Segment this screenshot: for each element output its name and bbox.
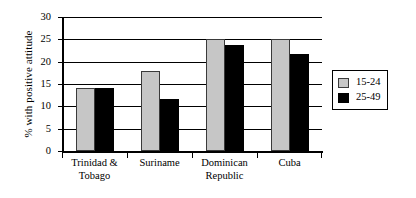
x-axis-label-line: Dominican (192, 157, 257, 170)
bar-1-3 (290, 54, 309, 151)
x-axis-label-1: Suriname (127, 157, 192, 170)
y-axis-tick-label: 0 (0, 146, 51, 157)
bar-1-0 (95, 88, 114, 151)
legend-item-0: 15-24 (338, 75, 381, 90)
bar-0-3 (271, 39, 290, 151)
y-axis-tick-label: 20 (0, 56, 51, 67)
legend-label: 25-49 (356, 92, 381, 103)
bar-0-0 (76, 88, 95, 151)
bar-1-1 (160, 99, 179, 151)
legend-swatch-icon (338, 93, 349, 103)
gridline (62, 17, 322, 18)
x-axis-label-3: Cuba (257, 157, 322, 170)
bar-0-1 (141, 71, 160, 151)
bar-0-2 (206, 39, 225, 151)
x-axis-label-line: Republic (192, 170, 257, 183)
y-axis-tick-label: 25 (0, 34, 51, 45)
chart-legend: 15-2425-49 (332, 70, 388, 110)
legend-label: 15-24 (356, 77, 381, 88)
plot-area (62, 17, 322, 152)
legend-swatch-icon (338, 78, 349, 88)
y-axis-line (62, 17, 64, 153)
y-axis-tick-label: 15 (0, 79, 51, 90)
y-axis-tick-label: 10 (0, 101, 51, 112)
y-axis-tick-label: 5 (0, 123, 51, 134)
x-axis-label-line: Trinidad & (62, 157, 127, 170)
bar-chart-figure: % with positive attitude 051015202530 Tr… (0, 0, 416, 198)
x-axis-label-2: DominicanRepublic (192, 157, 257, 182)
legend-item-1: 25-49 (338, 90, 381, 105)
bar-1-2 (225, 45, 244, 151)
x-axis-label-0: Trinidad &Tobago (62, 157, 127, 182)
x-axis-label-line: Suriname (127, 157, 192, 170)
y-axis-tick-label: 30 (0, 12, 51, 23)
x-axis-label-line: Tobago (62, 170, 127, 183)
x-axis-label-line: Cuba (257, 157, 322, 170)
